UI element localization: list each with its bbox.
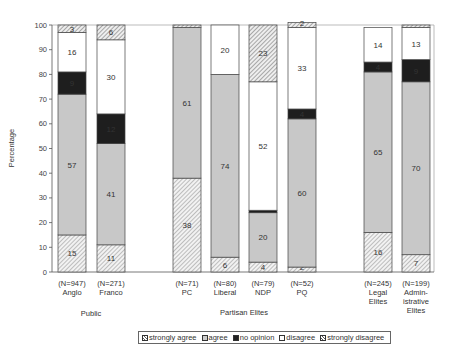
category-name-label: Anglo [62,288,81,297]
legend-item-strongly-disagree: strongly disagree [320,333,384,342]
segment-value-label: 60 [298,189,307,198]
disagree-swatch-icon [279,335,285,341]
y-tick-label: 20 [39,218,47,227]
y-tick-label: 40 [39,169,47,178]
group-label-partisan-elites: Partisan Elites [220,308,268,317]
segment-value-label: 23 [259,49,268,58]
bar-pq: 2604332 [288,19,316,273]
segment-value-label: 13 [412,40,421,49]
legend-item-no-opinion: no opinion [233,333,275,342]
legend-item-agree: agree [202,333,228,342]
bar-anglo: 15579163 [58,25,86,272]
segment-value-label: 20 [221,46,230,55]
category-n-label: (N=947) [58,279,86,288]
bar-ndp: 4205223 [249,25,277,272]
bar-legal-elites: 1665414 [364,27,392,272]
stacked-bar-chart: 0102030405060708090100Percentage 1557916… [0,0,452,358]
segment-value-label: 52 [259,142,268,151]
category-name-label: Elites [369,297,388,306]
category-n-label: (N=80) [213,279,237,288]
bar-liberal: 67420 [211,25,239,272]
category-n-label: (N=271) [97,279,125,288]
category-name-label: PC [182,288,193,297]
strongly-disagree-swatch-icon [320,335,326,341]
segment-value-label: 4 [376,63,381,72]
bar-pc: 3861 [173,25,201,272]
y-tick-label: 90 [39,45,47,54]
segment-value-label: 38 [183,221,192,230]
no-opinion-swatch-icon [233,335,239,341]
group-label-public: Public [81,309,102,318]
category-name-label: PQ [297,288,308,297]
y-tick-label: 80 [39,70,47,79]
legend-item-strongly-agree: strongly agree [142,333,197,342]
segment-value-label: 20 [259,233,268,242]
bar-segment-strongly-disagree [402,25,430,27]
segment-value-label: 2 [300,19,305,28]
segment-value-label: 9 [414,67,419,76]
category-name-label: Franco [99,288,122,297]
y-tick-label: 70 [39,95,47,104]
y-tick-label: 100 [34,21,47,30]
category-n-label: (N=79) [251,279,275,288]
segment-value-label: 6 [109,28,114,37]
y-tick-label: 0 [43,268,47,277]
legend-item-disagree: disagree [279,333,315,342]
segment-value-label: 12 [107,125,116,134]
bars: 1557916311411230638616742042052232604332… [58,19,430,273]
segment-value-label: 4 [261,263,266,272]
segment-value-label: 57 [68,161,77,170]
segment-value-label: 6 [223,261,228,270]
segment-value-label: 9 [70,79,75,88]
segment-value-label: 16 [374,248,383,257]
segment-value-label: 7 [414,259,419,268]
category-n-label: (N=71) [175,279,199,288]
category-n-label: (N=52) [290,279,314,288]
category-name-label: istrative [403,297,429,306]
y-tick-label: 30 [39,193,47,202]
segment-value-label: 65 [374,148,383,157]
category-name-label: Liberal [214,288,237,297]
legend: strongly agree agree no opinion disagree… [138,331,391,344]
category-labels: (N=947)Anglo(N=271)Franco(N=71)PC(N=80)L… [58,279,430,318]
segment-value-label: 15 [68,249,77,258]
bar-segment-no-opinion [249,210,277,212]
y-tick-label: 10 [39,243,47,252]
strongly-agree-swatch-icon [142,335,148,341]
bar-franco: 114112306 [97,25,125,272]
y-tick-label: 50 [39,144,47,153]
segment-value-label: 4 [300,110,305,119]
segment-value-label: 16 [68,48,77,57]
segment-value-label: 33 [298,64,307,73]
segment-value-label: 74 [221,162,230,171]
segment-value-label: 70 [412,164,421,173]
y-tick-label: 60 [39,119,47,128]
segment-value-label: 14 [374,41,383,50]
segment-value-label: 61 [183,99,192,108]
y-axis-title: Percentage [7,129,16,167]
category-name-label: Elites [407,306,426,315]
segment-value-label: 11 [107,254,116,263]
category-n-label: (N=245) [364,279,392,288]
category-n-label: (N=199) [402,279,430,288]
category-name-label: Admin- [404,288,428,297]
bar-segment-strongly-disagree [173,25,201,27]
segment-value-label: 41 [107,190,116,199]
bar-admin-istrative-elites: 770913 [402,25,430,272]
category-name-label: Legal [369,288,388,297]
agree-swatch-icon [202,335,208,341]
category-name-label: NDP [255,288,271,297]
segment-value-label: 3 [70,25,75,34]
segment-value-label: 30 [107,73,116,82]
